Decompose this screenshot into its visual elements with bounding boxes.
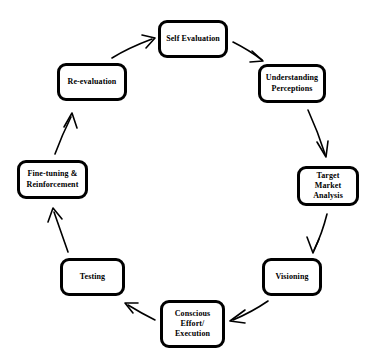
node-target-market-analysis[interactable]: Target Market Analysis <box>297 166 359 206</box>
node-label-re-evaluation: Re-evaluation <box>65 77 120 87</box>
arrow-visioning-to-conscious-effort-execution <box>230 301 268 323</box>
arrow-self-evaluation-to-understanding-perceptions <box>233 42 263 62</box>
arrow-understanding-perceptions-to-target-market-analysis <box>308 110 328 157</box>
arrow-testing-to-fine-tuning-reinforcement <box>48 208 68 252</box>
node-fine-tuning-reinforcement[interactable]: Fine-tuning & Reinforcement <box>17 160 88 199</box>
arrow-re-evaluation-to-self-evaluation <box>112 35 155 58</box>
node-label-testing: Testing <box>77 272 108 282</box>
node-conscious-effort-execution[interactable]: Conscious Effort/ Execution <box>160 300 225 348</box>
node-re-evaluation[interactable]: Re-evaluation <box>57 63 127 101</box>
arrow-target-market-analysis-to-visioning <box>307 214 327 253</box>
node-label-target-market-analysis: Target Market Analysis <box>300 171 356 202</box>
node-testing[interactable]: Testing <box>60 258 125 296</box>
node-label-visioning: Visioning <box>272 272 311 282</box>
node-label-fine-tuning-reinforcement: Fine-tuning & Reinforcement <box>24 169 82 189</box>
node-self-evaluation[interactable]: Self Evaluation <box>158 20 228 58</box>
arrow-conscious-effort-execution-to-testing <box>125 303 155 320</box>
node-label-conscious-effort-execution: Conscious Effort/ Execution <box>172 309 214 340</box>
cycle-diagram: Self Evaluation Understanding Perception… <box>0 0 383 362</box>
node-understanding-perceptions[interactable]: Understanding Perceptions <box>258 64 326 103</box>
arrow-fine-tuning-reinforcement-to-re-evaluation <box>55 113 77 154</box>
node-label-understanding-perceptions: Understanding Perceptions <box>263 73 321 93</box>
node-visioning[interactable]: Visioning <box>262 258 322 296</box>
node-label-self-evaluation: Self Evaluation <box>163 34 223 44</box>
